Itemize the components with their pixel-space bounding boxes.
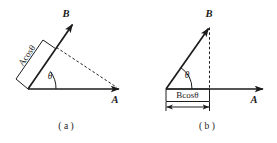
panel-b: B A θ Bcosθ ( b ) bbox=[166, 8, 263, 132]
vector-projection-figure: B A θ Acosθ ( a ) bbox=[0, 0, 277, 143]
panel-a-projection-label: Acosθ bbox=[16, 43, 37, 67]
figure-canvas: B A θ Acosθ ( a ) bbox=[0, 0, 277, 143]
panel-a: B A θ Acosθ ( a ) bbox=[16, 8, 119, 132]
panel-b-vector-b-label: B bbox=[204, 8, 212, 19]
panel-a-dashed-projection-line bbox=[57, 48, 118, 88]
panel-a-vector-a-label: A bbox=[110, 94, 118, 105]
panel-b-projection-label: Bcosθ bbox=[176, 90, 198, 100]
panel-a-vector-b-label: B bbox=[61, 8, 69, 19]
panel-a-caption: ( a ) bbox=[58, 121, 73, 132]
panel-a-projection-tick-near bbox=[16, 79, 28, 89]
panel-b-angle-label: θ bbox=[185, 70, 190, 80]
panel-a-projection-tick-far bbox=[43, 40, 56, 49]
panel-b-caption: ( b ) bbox=[199, 121, 215, 132]
panel-a-angle-label: θ bbox=[48, 71, 53, 81]
panel-b-vector-a-label: A bbox=[249, 94, 257, 105]
